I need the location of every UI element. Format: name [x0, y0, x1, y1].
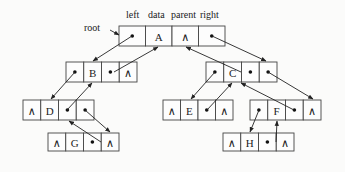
pointer-dot-icon	[249, 70, 253, 74]
pointer-dot-icon	[130, 34, 134, 38]
null-pointer-icon: ∧	[106, 137, 114, 149]
null-pointer-icon: ∧	[168, 105, 176, 117]
tree-diagram: left data parent right root A∧B∧C∧D∧E∧F∧…	[0, 0, 345, 172]
node-data-label: D	[46, 105, 54, 117]
node-data-label: G	[71, 137, 79, 149]
tree-node-a: A∧	[119, 26, 225, 46]
null-pointer-icon: ∧	[228, 137, 236, 149]
tree-node-e: ∧E∧	[163, 100, 233, 120]
diagram-canvas: left data parent right root A∧B∧C∧D∧E∧F∧…	[0, 0, 345, 172]
header-data-label: data	[148, 9, 165, 20]
null-pointer-icon: ∧	[220, 105, 228, 117]
tree-node-h: ∧H∧	[223, 133, 294, 151]
child-pointer-arrow	[212, 36, 266, 61]
tree-node-f: F∧	[250, 100, 321, 120]
null-pointer-icon: ∧	[181, 31, 189, 43]
header-parent-label: parent	[171, 9, 196, 20]
child-pointer-arrow	[268, 72, 313, 99]
pointer-dot-icon	[266, 140, 270, 144]
header-left-label: left	[126, 9, 140, 20]
tree-node-g: ∧G∧	[48, 133, 119, 151]
null-pointer-icon: ∧	[28, 105, 36, 117]
node-data-label: A	[155, 31, 163, 43]
node-data-label: E	[186, 105, 193, 117]
node-data-label: H	[246, 137, 254, 149]
pointer-dot-icon	[109, 70, 113, 74]
null-pointer-icon: ∧	[281, 137, 289, 149]
header-right-label: right	[200, 9, 219, 20]
null-pointer-icon: ∧	[124, 67, 132, 79]
node-data-label: B	[89, 67, 96, 79]
root-label: root	[84, 22, 100, 33]
root-pointer-arrow	[110, 30, 119, 35]
field-header: left data parent right	[126, 9, 219, 20]
child-pointer-arrow	[191, 72, 215, 99]
pointer-dot-icon	[91, 140, 95, 144]
pointer-arrows	[51, 30, 313, 142]
child-pointer-arrow	[51, 72, 75, 99]
tree-node-d: ∧D	[23, 100, 94, 120]
null-pointer-icon: ∧	[53, 137, 61, 149]
tree-node-c: C	[206, 62, 277, 82]
null-pointer-icon: ∧	[308, 105, 316, 117]
child-pointer-arrow	[93, 36, 132, 61]
child-pointer-arrow	[85, 110, 110, 132]
node-data-label: F	[274, 105, 280, 117]
